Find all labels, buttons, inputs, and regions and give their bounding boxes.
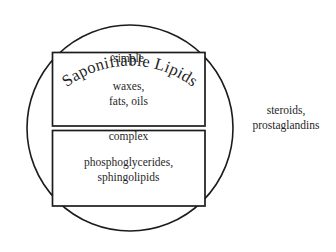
complex-items: phosphoglycerides, sphingolipids: [52, 155, 205, 184]
simple-heading: simple: [52, 51, 205, 66]
lipid-classification-diagram: Saponifiable Lipids simple waxes, fats, …: [0, 0, 336, 252]
simple-items: waxes, fats, oils: [52, 79, 205, 108]
complex-heading: complex: [52, 129, 205, 144]
unsaponifiable-lipids-label: steroids, prostaglandins: [238, 103, 334, 132]
